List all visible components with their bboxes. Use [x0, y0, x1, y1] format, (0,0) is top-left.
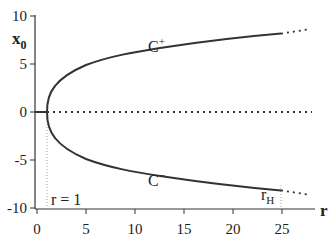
svg-text:25: 25 — [275, 221, 290, 237]
x-ticks — [37, 209, 282, 214]
x-axis-label: r — [320, 201, 328, 220]
svg-text:15: 15 — [177, 221, 192, 237]
x-tick-labels: 0 5 10 15 20 25 — [33, 221, 289, 237]
svg-text:20: 20 — [226, 221, 241, 237]
r1-label: r = 1 — [51, 191, 81, 208]
svg-text:10: 10 — [128, 221, 143, 237]
c-minus-label: C− — [148, 169, 165, 189]
y-ticks — [30, 16, 35, 208]
svg-text:-10: -10 — [7, 200, 27, 216]
svg-text:10: 10 — [12, 8, 27, 24]
svg-text:-5: -5 — [15, 152, 28, 168]
y-axis-label: x0 — [12, 29, 27, 52]
c-plus-unstable-curve — [281, 29, 309, 33]
svg-text:0: 0 — [20, 104, 28, 120]
svg-text:5: 5 — [82, 221, 90, 237]
svg-text:5: 5 — [20, 56, 28, 72]
c-plus-label: C+ — [148, 35, 165, 55]
svg-text:0: 0 — [33, 221, 41, 237]
c-minus-unstable-curve — [281, 190, 309, 194]
bifurcation-chart: 10 5 0 -5 -10 0 5 10 15 20 25 x0 r C+ C−… — [0, 0, 331, 242]
